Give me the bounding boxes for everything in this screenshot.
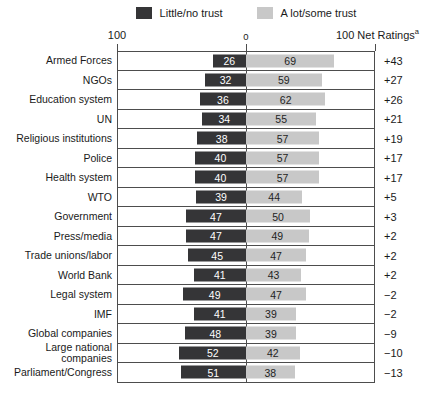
- chart-row: IMF4139−2: [0, 305, 421, 325]
- legend-item-little-no-trust: Little/no trust: [136, 7, 223, 19]
- net-rating-cell: +2: [375, 266, 421, 286]
- category-label: WTO: [88, 192, 112, 203]
- bar-little-no-trust: 32: [205, 73, 246, 86]
- bar-a-lot-some-trust: 50: [246, 210, 310, 223]
- net-rating-cell: +26: [375, 90, 421, 110]
- bar-value-a-lot-some-trust: 49: [272, 230, 284, 242]
- bar-value-little-no-trust: 41: [214, 308, 226, 320]
- category-label: Parliament/Congress: [14, 367, 112, 378]
- bar-a-lot-some-trust: 38: [246, 366, 295, 379]
- chart-row: Trade unions/labor4547+2: [0, 246, 421, 266]
- net-rating-value: +2: [384, 250, 397, 262]
- axis-tick-left: [117, 44, 118, 51]
- bar-little-no-trust: 39: [196, 190, 246, 203]
- category-label: Trade unions/labor: [25, 250, 112, 261]
- net-rating-cell: −2: [375, 305, 421, 325]
- bar-value-little-no-trust: 39: [215, 191, 227, 203]
- bar-a-lot-some-trust: 44: [246, 190, 302, 203]
- bar-little-no-trust: 51: [181, 366, 246, 379]
- bar-a-lot-some-trust: 42: [246, 346, 300, 359]
- bar-little-no-trust: 41: [194, 268, 246, 281]
- category-label: IMF: [94, 309, 112, 320]
- bar-value-a-lot-some-trust: 57: [277, 171, 289, 183]
- category-label-cell: Large national companies: [0, 344, 117, 364]
- axis-tick-label-center-0: 0: [243, 31, 248, 42]
- category-label: Religious institutions: [16, 133, 112, 144]
- bar-value-a-lot-some-trust: 47: [270, 249, 282, 261]
- net-rating-value: +26: [384, 94, 403, 106]
- bar-value-little-no-trust: 47: [210, 230, 222, 242]
- plot-cell: 4143: [117, 266, 375, 286]
- category-label: Large national companies: [45, 342, 112, 364]
- chart-row: Religious institutions3857+19: [0, 129, 421, 149]
- net-rating-value: −10: [384, 347, 403, 359]
- category-label-cell: IMF: [0, 305, 117, 325]
- bar-little-no-trust: 34: [202, 112, 246, 125]
- bar-little-no-trust: 45: [188, 249, 246, 262]
- bar-value-a-lot-some-trust: 43: [268, 269, 280, 281]
- category-label: Education system: [29, 94, 112, 105]
- chart-row: Education system3662+26: [0, 90, 421, 110]
- bar-value-little-no-trust: 48: [209, 327, 221, 339]
- chart-row: Legal system4947−2: [0, 285, 421, 305]
- bar-a-lot-some-trust: 39: [246, 307, 296, 320]
- bar-little-no-trust: 40: [195, 171, 246, 184]
- category-label-cell: Religious institutions: [0, 129, 117, 149]
- plot-cell: 3944: [117, 188, 375, 208]
- net-rating-cell: −13: [375, 363, 421, 383]
- bar-little-no-trust: 41: [194, 307, 246, 320]
- net-rating-cell: +17: [375, 168, 421, 188]
- bar-value-a-lot-some-trust: 57: [277, 132, 289, 144]
- category-label-cell: Trade unions/labor: [0, 246, 117, 266]
- bar-little-no-trust: 47: [186, 210, 246, 223]
- net-ratings-footnote-marker: a: [415, 27, 419, 36]
- axis-label-net-ratings: 100 Net Ratingsa: [336, 29, 419, 41]
- bar-a-lot-some-trust: 57: [246, 132, 319, 145]
- plot-cell: 3662: [117, 90, 375, 110]
- category-label: Armed Forces: [46, 55, 112, 66]
- plot-cell: 5138: [117, 363, 375, 383]
- net-rating-cell: +3: [375, 207, 421, 227]
- legend-swatch-dark: [136, 7, 152, 19]
- bar-value-little-no-trust: 36: [217, 93, 229, 105]
- chart-row: Police4057+17: [0, 149, 421, 169]
- net-rating-value: +27: [384, 74, 403, 86]
- bar-value-a-lot-some-trust: 39: [265, 308, 277, 320]
- bar-value-little-no-trust: 32: [220, 74, 232, 86]
- bar-value-little-no-trust: 38: [216, 132, 228, 144]
- bar-value-little-no-trust: 45: [211, 249, 223, 261]
- category-label: Press/media: [54, 231, 112, 242]
- bar-value-little-no-trust: 40: [215, 171, 227, 183]
- category-label-cell: Legal system: [0, 285, 117, 305]
- bar-value-little-no-trust: 47: [210, 210, 222, 222]
- net-rating-value: −9: [384, 328, 397, 340]
- category-label-cell: Education system: [0, 90, 117, 110]
- category-label: Police: [83, 153, 112, 164]
- bar-value-a-lot-some-trust: 39: [265, 327, 277, 339]
- plot-cell: 4057: [117, 168, 375, 188]
- chart-row: UN3455+21: [0, 110, 421, 130]
- bar-value-little-no-trust: 41: [214, 269, 226, 281]
- bar-value-little-no-trust: 34: [218, 113, 230, 125]
- plot-cell: 3857: [117, 129, 375, 149]
- bar-little-no-trust: 48: [185, 327, 246, 340]
- category-label: Global companies: [28, 328, 112, 339]
- net-rating-value: +19: [384, 133, 403, 145]
- chart-row: WTO3944+5: [0, 188, 421, 208]
- bar-value-a-lot-some-trust: 47: [270, 288, 282, 300]
- category-label: NGOs: [83, 75, 112, 86]
- plot-cell: 2669: [117, 51, 375, 71]
- chart-row: Health system4057+17: [0, 168, 421, 188]
- legend: Little/no trust A lot/some trust: [117, 7, 375, 19]
- net-rating-value: +21: [384, 113, 403, 125]
- bar-little-no-trust: 47: [186, 229, 246, 242]
- bar-value-a-lot-some-trust: 69: [284, 55, 296, 67]
- legend-label-a-lot-some-trust: A lot/some trust: [281, 7, 357, 19]
- net-rating-value: +2: [384, 230, 397, 242]
- bar-value-little-no-trust: 49: [209, 288, 221, 300]
- axis-tick-center: [246, 44, 247, 51]
- bar-value-a-lot-some-trust: 59: [278, 74, 290, 86]
- chart-row: World Bank4143+2: [0, 266, 421, 286]
- bar-value-a-lot-some-trust: 62: [280, 93, 292, 105]
- bar-a-lot-some-trust: 49: [246, 229, 309, 242]
